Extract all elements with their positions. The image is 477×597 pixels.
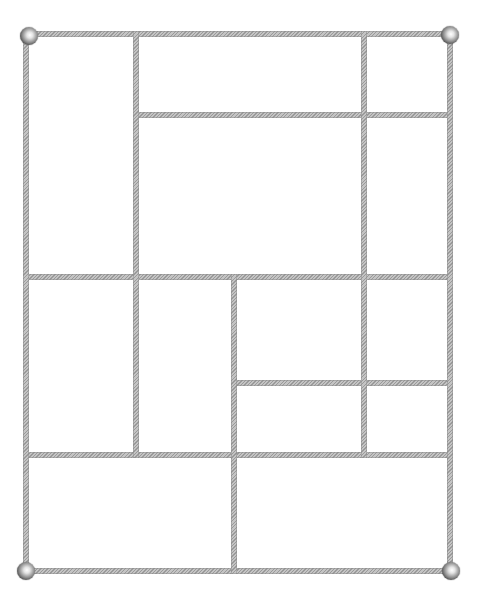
corner-ball-top-left xyxy=(20,27,38,45)
horizontal-bar xyxy=(23,31,453,37)
vertical-bar xyxy=(133,31,139,458)
horizontal-bar xyxy=(133,112,453,118)
vertical-bar xyxy=(361,31,367,458)
corner-ball-top-right xyxy=(441,26,459,44)
vertical-bar xyxy=(23,31,29,574)
horizontal-bar xyxy=(231,380,453,386)
horizontal-bar xyxy=(23,274,453,280)
vertical-bar xyxy=(231,274,237,574)
horizontal-bar xyxy=(23,452,453,458)
corner-ball-bottom-left xyxy=(17,562,35,580)
corner-ball-bottom-right xyxy=(442,562,460,580)
partition-diagram xyxy=(0,0,477,597)
horizontal-bar xyxy=(23,568,453,574)
vertical-bar xyxy=(447,31,453,574)
